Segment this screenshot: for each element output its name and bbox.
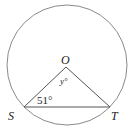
segment-ot [66,67,110,107]
label-t: T [111,109,119,123]
label-s: S [8,109,14,123]
label-o: O [61,53,70,67]
angle-51-label: 51° [37,94,52,106]
circle-diagram: O S T y° 51° [0,0,131,132]
angle-y-label: y° [59,76,68,86]
